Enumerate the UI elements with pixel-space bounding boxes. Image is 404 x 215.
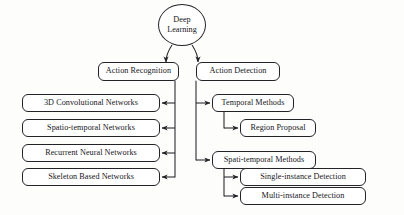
node-spati-temporal-methods[interactable]: Spati-temporal Methods <box>212 151 316 169</box>
node-region-proposal[interactable]: Region Proposal <box>240 119 316 137</box>
node-skeleton-based-networks-label: Skeleton Based Networks <box>48 173 134 182</box>
node-single-instance-detection-label: Single-instance Detection <box>260 173 346 182</box>
node-3d-convolutional-networks[interactable]: 3D Convolutional Networks <box>22 94 160 112</box>
connector-root-to-action-recognition <box>166 45 172 62</box>
node-action-recognition[interactable]: Action Recognition <box>98 62 179 81</box>
node-deep-learning-label: Deep Learning <box>162 15 202 36</box>
node-single-instance-detection[interactable]: Single-instance Detection <box>240 168 366 186</box>
node-action-detection[interactable]: Action Detection <box>196 62 280 81</box>
node-action-recognition-label: Action Recognition <box>106 67 171 76</box>
node-spati-temporal-methods-label: Spati-temporal Methods <box>224 156 304 165</box>
node-action-detection-label: Action Detection <box>210 67 267 76</box>
node-recurrent-neural-networks-label: Recurrent Neural Networks <box>45 149 137 158</box>
node-multi-instance-detection-label: Multi-instance Detection <box>262 192 345 201</box>
node-spatio-temporal-networks[interactable]: Spatio-temporal Networks <box>22 119 160 137</box>
node-3d-convolutional-networks-label: 3D Convolutional Networks <box>44 99 138 108</box>
node-multi-instance-detection[interactable]: Multi-instance Detection <box>240 187 366 205</box>
node-deep-learning[interactable]: Deep Learning <box>158 4 206 46</box>
node-skeleton-based-networks[interactable]: Skeleton Based Networks <box>22 168 160 186</box>
node-recurrent-neural-networks[interactable]: Recurrent Neural Networks <box>22 144 160 162</box>
node-spatio-temporal-networks-label: Spatio-temporal Networks <box>47 124 135 133</box>
diagram-canvas: Deep Learning Action Recognition Action … <box>0 0 404 215</box>
connector-root-to-action-detection <box>192 45 198 62</box>
node-region-proposal-label: Region Proposal <box>250 124 305 133</box>
node-temporal-methods-label: Temporal Methods <box>222 99 285 108</box>
node-temporal-methods[interactable]: Temporal Methods <box>212 94 294 112</box>
